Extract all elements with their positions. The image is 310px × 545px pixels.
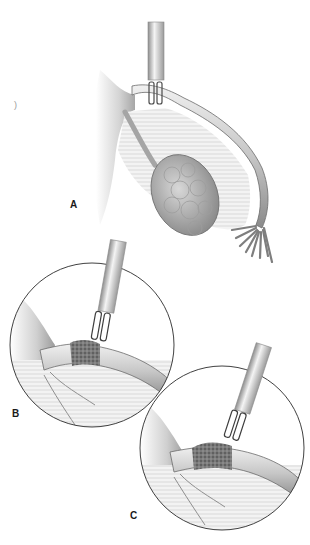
panel-a	[96, 22, 272, 262]
surgical-illustration	[0, 0, 310, 545]
panel-label-b: B	[12, 408, 19, 419]
illustration-canvas	[0, 0, 310, 545]
stray-mark: )	[14, 100, 17, 110]
forceps-shaft-a	[148, 22, 164, 80]
panel-label-a: A	[70, 199, 77, 210]
panel-label-c: C	[130, 510, 137, 521]
fimbriae	[232, 226, 272, 262]
